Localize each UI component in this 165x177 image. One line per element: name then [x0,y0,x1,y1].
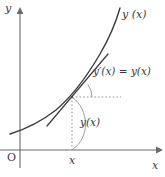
y-axis-label: y [5,3,11,14]
figure-canvas: y x O x y (x) y′(x) = y(x) y(x) [0,0,165,177]
x-tick-label: x [69,155,75,166]
y-axis [17,7,24,168]
x-axis-label: x [152,160,158,171]
ordinate-label: y(x) [80,117,100,128]
derivative-equation-label: y′(x) = y(x) [93,66,151,77]
figure-svg [0,0,165,177]
angle-arc [88,85,92,97]
y-axis-arrow-icon [17,7,24,14]
origin-label: O [7,152,16,163]
x-axis-arrow-icon [156,147,163,154]
tangent-point-marker [71,96,73,98]
curve-label: y (x) [122,9,147,20]
x-axis [0,147,163,154]
